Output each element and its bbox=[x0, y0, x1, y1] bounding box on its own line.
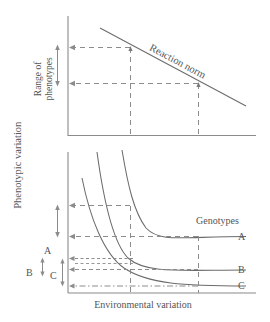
top-guide-arrow-upper bbox=[69, 45, 75, 50]
range-bracket-arrow-bottom bbox=[55, 81, 60, 87]
genotypes-legend-title: Genotypes bbox=[196, 216, 239, 226]
range-bracket-B-arrow-bottom bbox=[40, 272, 44, 277]
bottom-guide-arrow-A-high bbox=[69, 203, 75, 208]
range-label-line1: Range of bbox=[33, 62, 43, 97]
range-bracket-B-arrow-top bbox=[40, 258, 44, 263]
range-bracket-A-arrow-bottom bbox=[55, 232, 60, 238]
top-guide-arrow-lower bbox=[69, 81, 75, 86]
genotype-curve-B bbox=[97, 152, 246, 270]
bottom-guide-arrow-B-high bbox=[69, 256, 75, 261]
bottom-guide-arrow-C-low bbox=[69, 284, 75, 289]
x-axis-label: Environmental variation bbox=[68, 300, 218, 310]
y-axis-label: Phenotypic variation bbox=[13, 95, 24, 235]
top-intersect-marker-env2 bbox=[196, 82, 200, 87]
range-bracket-label-a: A bbox=[44, 246, 51, 256]
bottom-guide-arrow-A-low bbox=[69, 234, 75, 239]
genotype-label-c: C bbox=[238, 281, 245, 291]
range-bracket-C-arrow-bottom bbox=[60, 282, 64, 287]
genotype-label-a: A bbox=[238, 232, 245, 242]
top-panel bbox=[55, 16, 256, 136]
top-intersect-marker-env1 bbox=[128, 46, 132, 51]
range-bracket-arrow-top bbox=[55, 45, 60, 51]
range-bracket-C-arrow-top bbox=[60, 259, 64, 264]
range-label-line2: phenotypes bbox=[44, 57, 54, 100]
range-of-phenotypes-label: Range ofphenotypes bbox=[33, 31, 55, 127]
reaction-norm-line bbox=[100, 28, 246, 106]
bottom-guide-arrow-B-low bbox=[69, 267, 75, 272]
range-bracket-label-c: C bbox=[50, 271, 57, 281]
range-bracket-label-b: B bbox=[26, 268, 33, 278]
genotype-label-b: B bbox=[238, 265, 245, 275]
range-bracket-A-arrow-top bbox=[55, 205, 60, 211]
